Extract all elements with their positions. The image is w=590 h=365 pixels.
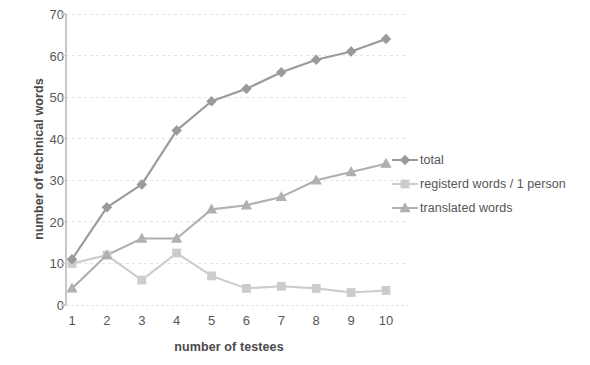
chart-figure: number of technical words number of test… (0, 0, 590, 365)
data-point-square (382, 287, 390, 295)
legend-label: translated words (420, 201, 513, 215)
data-point-diamond (312, 55, 321, 64)
legend-diamond-icon (392, 153, 418, 167)
legend-item[interactable]: total (392, 148, 588, 172)
legend-label: registerd words / 1 person (420, 177, 566, 191)
data-point-square (401, 180, 409, 188)
legend-square-icon (392, 177, 418, 191)
data-point-square (173, 249, 181, 257)
series-line (72, 164, 386, 289)
data-point-diamond (382, 35, 391, 44)
data-point-triangle (381, 159, 390, 167)
chart-legend: totalregisterd words / 1 persontranslate… (392, 148, 588, 220)
data-point-square (243, 285, 251, 293)
data-point-diamond (401, 156, 410, 165)
data-point-square (208, 272, 216, 280)
legend-item[interactable]: registerd words / 1 person (392, 172, 588, 196)
series-line (72, 253, 386, 292)
data-point-square (278, 282, 286, 290)
legend-item[interactable]: translated words (392, 196, 588, 220)
legend-label: total (420, 153, 444, 167)
series-line (72, 39, 386, 259)
data-point-diamond (347, 47, 356, 56)
legend-triangle-icon (392, 201, 418, 215)
data-point-diamond (242, 84, 251, 93)
data-point-square (138, 276, 146, 284)
data-point-square (312, 285, 320, 293)
data-point-square (347, 289, 355, 297)
data-point-diamond (277, 68, 286, 77)
